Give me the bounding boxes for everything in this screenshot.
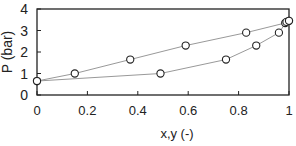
y-tick-label: 0 (20, 87, 28, 103)
y-axis-label: P (bar) (0, 31, 15, 74)
x-tick-label: 0.6 (179, 103, 197, 118)
x-tick-label: 0.8 (230, 103, 248, 118)
data-point (275, 29, 282, 36)
x-tick-label: 1 (285, 103, 292, 118)
data-point (182, 42, 189, 49)
x-tick-label: 0.4 (129, 103, 147, 118)
data-point (127, 56, 134, 63)
x-axis-label: x,y (-) (160, 126, 193, 141)
plot-frame (37, 9, 289, 95)
data-point (222, 56, 229, 63)
y-tick-label: 4 (20, 1, 28, 17)
y-tick-label: 1 (20, 66, 28, 82)
data-point (71, 70, 78, 77)
y-tick-label: 2 (20, 44, 28, 60)
vle-chart: 0123400.20.40.60.81x,y (-)P (bar) (0, 0, 296, 146)
y-tick-label: 3 (20, 23, 28, 39)
x-tick-label: 0.2 (78, 103, 96, 118)
chart-svg: 0123400.20.40.60.81x,y (-)P (bar) (0, 0, 296, 146)
data-point (157, 70, 164, 77)
data-point (253, 42, 260, 49)
data-point (243, 29, 250, 36)
x-tick-label: 0 (33, 103, 40, 118)
data-point (33, 77, 40, 84)
data-point (285, 17, 292, 24)
